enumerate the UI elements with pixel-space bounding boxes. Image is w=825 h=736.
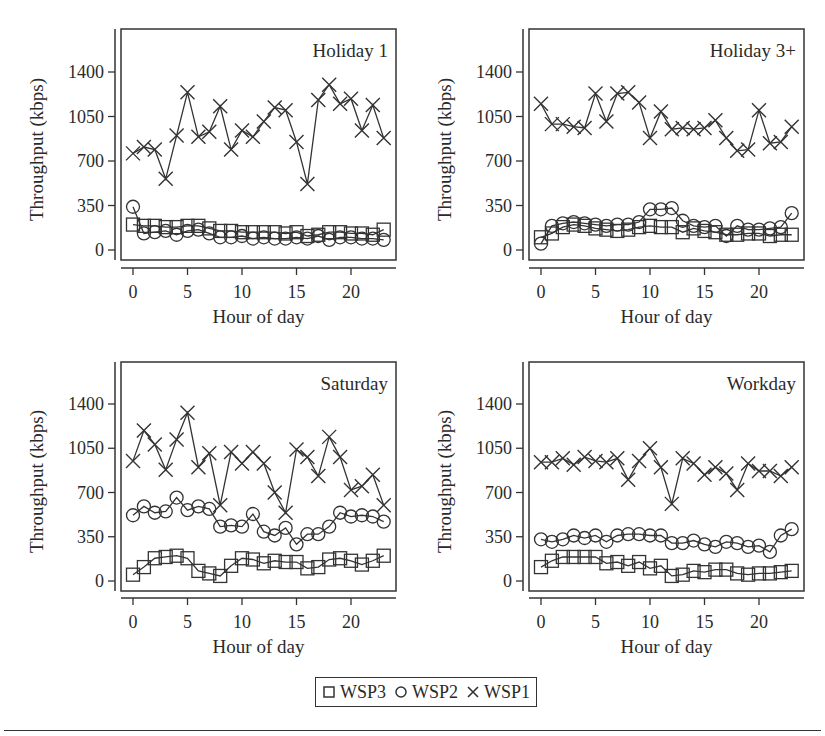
x-marker-icon bbox=[654, 460, 668, 474]
x-marker-icon bbox=[333, 450, 347, 464]
y-tick-label: 1050 bbox=[476, 107, 512, 127]
x-marker-icon bbox=[578, 450, 592, 464]
y-tick-label: 0 bbox=[95, 240, 104, 260]
x-axis-label: Hour of day bbox=[213, 636, 305, 657]
x-marker-icon bbox=[126, 454, 140, 468]
y-tick-label: 700 bbox=[77, 151, 104, 171]
x-marker-icon bbox=[785, 460, 799, 474]
y-tick-label: 1400 bbox=[476, 62, 512, 82]
x-marker-icon bbox=[665, 497, 679, 511]
x-marker-icon bbox=[191, 460, 205, 474]
x-marker-icon bbox=[170, 432, 184, 446]
x-tick-label: 20 bbox=[750, 612, 768, 632]
series-wsp2 bbox=[535, 202, 799, 251]
x-axis-label: Hour of day bbox=[621, 636, 713, 657]
panel-holiday-1: 03507001050140005101520Hour of dayThroug… bbox=[26, 29, 396, 327]
legend-item-wsp2: WSP2 bbox=[394, 682, 458, 703]
y-axis-label: Throughput (kbps) bbox=[434, 78, 456, 221]
x-marker-icon bbox=[643, 441, 657, 455]
x-tick-label: 20 bbox=[342, 282, 360, 302]
x-marker-icon bbox=[148, 143, 162, 157]
x-tick-label: 10 bbox=[641, 282, 659, 302]
series-wsp1 bbox=[126, 406, 391, 520]
x-marker-icon bbox=[268, 101, 282, 115]
x-marker-icon bbox=[290, 443, 304, 457]
x-tick-label: 20 bbox=[750, 282, 768, 302]
y-tick-label: 0 bbox=[95, 571, 104, 591]
square-icon bbox=[322, 685, 336, 699]
series-wsp2 bbox=[127, 491, 391, 551]
y-tick-label: 700 bbox=[485, 151, 512, 171]
bottom-rule bbox=[4, 730, 821, 731]
x-tick-label: 0 bbox=[537, 612, 546, 632]
x-marker-icon bbox=[719, 131, 733, 145]
panel-saturday: 03507001050140005101520Hour of dayThroug… bbox=[26, 362, 396, 657]
x-marker-icon bbox=[632, 96, 646, 110]
x-tick-label: 15 bbox=[288, 282, 306, 302]
x-tick-label: 0 bbox=[537, 282, 546, 302]
x-tick-label: 15 bbox=[288, 612, 306, 632]
y-tick-label: 1050 bbox=[68, 107, 104, 127]
x-marker-icon bbox=[311, 469, 325, 483]
y-tick-label: 700 bbox=[485, 483, 512, 503]
x-tick-label: 10 bbox=[233, 612, 251, 632]
panel-workday: 03507001050140005101520Hour of dayThroug… bbox=[434, 362, 804, 657]
x-marker-icon bbox=[322, 430, 336, 444]
y-tick-label: 1050 bbox=[476, 438, 512, 458]
x-tick-label: 20 bbox=[342, 612, 360, 632]
plots-canvas: 03507001050140005101520Hour of dayThroug… bbox=[0, 0, 825, 680]
x-marker-icon bbox=[698, 468, 712, 482]
x-marker-icon bbox=[610, 451, 624, 465]
x-marker-icon bbox=[643, 131, 657, 145]
x-marker-icon bbox=[159, 463, 173, 477]
x-marker-icon bbox=[741, 456, 755, 470]
x-marker-icon bbox=[224, 143, 238, 157]
x-tick-label: 15 bbox=[696, 612, 714, 632]
x-tick-label: 15 bbox=[696, 282, 714, 302]
x-tick-label: 5 bbox=[183, 612, 192, 632]
series-wsp3 bbox=[535, 550, 799, 582]
x-marker-icon bbox=[290, 135, 304, 149]
x-marker-icon bbox=[159, 172, 173, 186]
legend: WSP3 WSP2 WSP1 bbox=[315, 677, 537, 707]
x-marker-icon bbox=[170, 129, 184, 143]
y-tick-label: 1050 bbox=[68, 438, 104, 458]
x-marker-icon bbox=[377, 498, 391, 512]
x-tick-label: 10 bbox=[641, 612, 659, 632]
x-marker-icon bbox=[181, 406, 195, 420]
legend-item-wsp3: WSP3 bbox=[322, 682, 386, 703]
x-axis-label: Hour of day bbox=[213, 306, 305, 327]
x-tick-label: 5 bbox=[183, 282, 192, 302]
series-wsp1 bbox=[126, 78, 391, 191]
panel-title: Holiday 3+ bbox=[710, 40, 796, 61]
figure: 03507001050140005101520Hour of dayThroug… bbox=[0, 0, 825, 736]
panel-title: Saturday bbox=[320, 373, 388, 394]
panel-title: Workday bbox=[727, 373, 797, 394]
y-tick-label: 1400 bbox=[476, 394, 512, 414]
panel-holiday-3-: 03507001050140005101520Hour of dayThroug… bbox=[434, 29, 804, 327]
x-marker-icon bbox=[621, 473, 635, 487]
legend-label: WSP1 bbox=[484, 682, 530, 703]
legend-label: WSP3 bbox=[340, 682, 386, 703]
x-marker-icon bbox=[752, 103, 766, 117]
y-tick-label: 0 bbox=[503, 571, 512, 591]
x-marker-icon bbox=[300, 450, 314, 464]
y-tick-label: 350 bbox=[485, 527, 512, 547]
x-tick-label: 5 bbox=[591, 282, 600, 302]
x-marker-icon bbox=[322, 78, 336, 92]
x-axis-label: Hour of day bbox=[621, 306, 713, 327]
circle-icon bbox=[394, 685, 408, 699]
panel-title: Holiday 1 bbox=[313, 40, 388, 61]
x-tick-label: 0 bbox=[129, 612, 138, 632]
x-marker-icon bbox=[213, 99, 227, 113]
x-marker-icon bbox=[632, 454, 646, 468]
y-axis-label: Throughput (kbps) bbox=[26, 78, 48, 221]
y-tick-label: 1400 bbox=[68, 394, 104, 414]
series-wsp1 bbox=[534, 85, 799, 157]
legend-label: WSP2 bbox=[412, 682, 458, 703]
x-tick-label: 5 bbox=[591, 612, 600, 632]
y-tick-label: 350 bbox=[77, 527, 104, 547]
legend-item-wsp1: WSP1 bbox=[466, 682, 530, 703]
x-marker-icon bbox=[137, 424, 151, 438]
x-marker-icon bbox=[257, 456, 271, 470]
